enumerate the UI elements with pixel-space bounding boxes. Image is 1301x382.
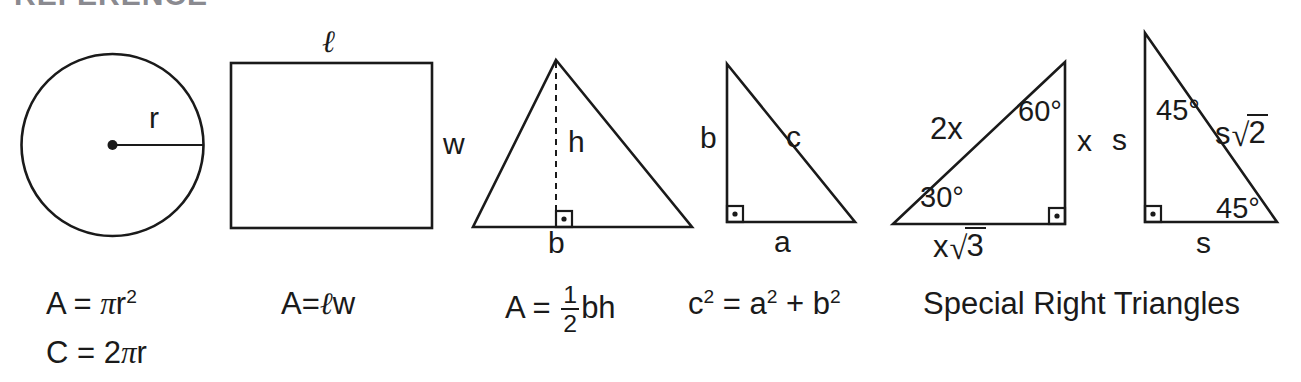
triangle-45-45-90-base-label: s xyxy=(1196,228,1211,258)
formula-a: a xyxy=(750,286,767,321)
rectangle-width-label: w xyxy=(443,129,465,159)
hypotenuse-prefix: s xyxy=(1215,116,1231,151)
triangle-45-45-90-hypotenuse-label: s√2 xyxy=(1215,115,1268,150)
figure-circle xyxy=(22,54,204,236)
pi-symbol: π xyxy=(121,335,137,370)
formula-rectangle-area: A=ℓw xyxy=(281,288,355,319)
formula-exponent: 2 xyxy=(126,286,137,307)
right-triangle-hypotenuse-c-label: c xyxy=(786,122,801,152)
triangle-right-angle-dot xyxy=(561,216,566,221)
fraction-denominator: 2 xyxy=(561,311,579,336)
triangle-30-60-90-angle-30-label: 30° xyxy=(920,183,964,212)
formula-circle-area: A = πr2 xyxy=(46,288,137,319)
right-triangle-leg-b-label: b xyxy=(700,123,717,153)
triangle-45-45-90-right-angle-dot xyxy=(1150,211,1155,216)
formula-coefficient: 2 xyxy=(104,335,121,370)
circle-radius-label: r xyxy=(149,103,159,133)
radicand: 2 xyxy=(1247,114,1267,148)
formula-var: r xyxy=(137,335,147,370)
triangle-30-60-90-angle-60-label: 60° xyxy=(1018,97,1062,126)
formula-equals: = xyxy=(77,335,95,370)
circle-center-dot xyxy=(108,140,118,150)
triangle-30-60-90-base-label: x√3 xyxy=(933,228,986,263)
radicand: 3 xyxy=(965,227,985,261)
rectangle-outline xyxy=(231,63,432,228)
caption-special-right-triangles: Special Right Triangles xyxy=(923,288,1240,319)
figures-svg xyxy=(0,0,1301,382)
formula-equals: = xyxy=(74,286,92,321)
triangle-45-45-90-vertical-leg-label: s xyxy=(1112,125,1127,155)
ell-symbol: ℓ xyxy=(320,286,333,321)
geometry-reference-sheet: REFERENCE xyxy=(0,0,1301,382)
formula-equals: = xyxy=(533,290,551,325)
formula-lhs: A xyxy=(505,290,524,325)
right-triangle-right-angle-dot xyxy=(732,211,737,216)
triangle-30-60-90-right-angle-dot xyxy=(1054,213,1059,218)
formula-triangle-area: A = 1 2 bh xyxy=(505,283,616,338)
formula-plus: + xyxy=(786,286,804,321)
base-prefix: x xyxy=(933,229,949,264)
formula-b: b xyxy=(813,286,830,321)
radical-group: √2 xyxy=(1231,115,1268,150)
triangle-height-label: h xyxy=(568,127,585,157)
formula-lhs: A= xyxy=(281,286,320,321)
triangle-base-label: b xyxy=(548,228,565,258)
formula-b-exponent: 2 xyxy=(830,286,841,307)
formula-var: w xyxy=(333,286,355,321)
triangle-45-45-90-angle-top-label: 45° xyxy=(1156,96,1200,125)
pi-symbol: π xyxy=(100,286,116,321)
triangle-30-60-90-outline xyxy=(893,62,1065,224)
formula-lhs: A xyxy=(46,286,65,321)
fraction-one-half: 1 2 xyxy=(561,282,579,337)
triangle-30-60-90-vertical-leg-label: x xyxy=(1077,126,1092,156)
formula-var: r xyxy=(116,286,126,321)
formula-circle-circumference: C = 2πr xyxy=(46,337,147,368)
formula-lhs: C xyxy=(46,335,68,370)
figure-triangle-30-60-90 xyxy=(893,62,1065,224)
formula-equals: = xyxy=(723,286,741,321)
triangle-30-60-90-hypotenuse-label: 2x xyxy=(930,113,963,144)
formula-a-exponent: 2 xyxy=(767,286,778,307)
radical-group: √3 xyxy=(949,228,986,263)
fraction-numerator: 1 xyxy=(561,282,579,307)
formula-pythagorean-theorem: c2 = a2 + b2 xyxy=(688,288,841,319)
figure-rectangle xyxy=(231,63,432,228)
right-triangle-leg-a-label: a xyxy=(774,227,791,257)
formula-vars: bh xyxy=(581,290,615,325)
rectangle-length-label: ℓ xyxy=(322,26,335,57)
formula-c-exponent: 2 xyxy=(704,286,715,307)
formula-c: c xyxy=(688,286,704,321)
triangle-45-45-90-angle-bottom-label: 45° xyxy=(1216,194,1260,223)
